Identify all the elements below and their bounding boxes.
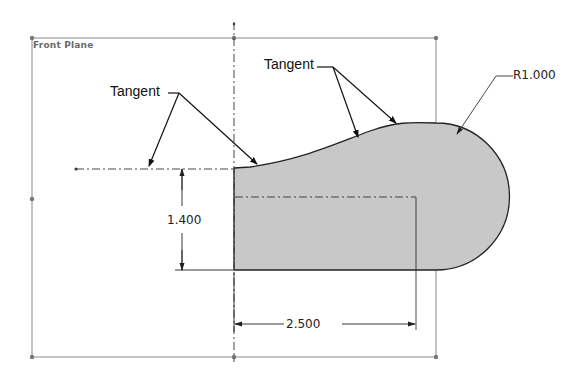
width-dimension [234, 272, 415, 332]
width-dimension-label[interactable]: 2.500 [286, 317, 320, 331]
origin-arrow [233, 23, 235, 25]
plane-label: Front Plane [33, 40, 94, 50]
tangent-callout-top[interactable]: Tangent [264, 56, 314, 72]
left-tangent-leader [149, 93, 257, 166]
radius-dimension-label[interactable]: R1.000 [513, 68, 556, 82]
radius-leader [457, 76, 513, 134]
centerline-endpoint [75, 168, 78, 171]
height-dimension-label[interactable]: 1.400 [167, 213, 201, 227]
tangent-callout-left[interactable]: Tangent [110, 83, 160, 99]
sketch-profile[interactable] [234, 123, 509, 270]
